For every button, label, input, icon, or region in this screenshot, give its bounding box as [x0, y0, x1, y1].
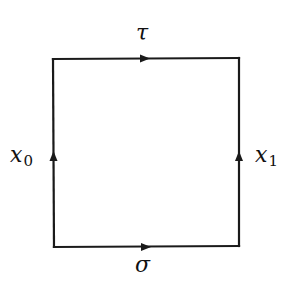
edge-label-tau: τ: [136, 22, 148, 44]
sigma-text: σ: [135, 252, 150, 277]
x1-main-text: x: [255, 142, 267, 167]
x0-main-text: x: [10, 142, 22, 167]
x1-subscript: 1: [268, 152, 278, 170]
edge-label-x1: x1: [255, 144, 278, 169]
tau-text: τ: [136, 20, 148, 45]
left-arrow-icon: [50, 151, 58, 161]
top-arrow-icon: [140, 55, 150, 63]
right-arrow-icon: [235, 151, 243, 161]
edge-label-x0: x0: [10, 144, 33, 169]
x0-subscript: 0: [23, 152, 33, 170]
edge-label-sigma: σ: [135, 254, 150, 276]
bottom-arrow-icon: [141, 243, 151, 251]
